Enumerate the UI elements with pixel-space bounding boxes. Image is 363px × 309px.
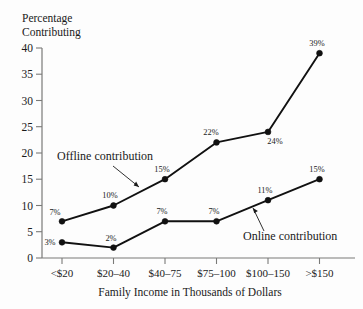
svg-text:0: 0 [27,252,33,264]
line-chart: Percentage Contributing 0 5 10 15 20 25 … [0,0,363,309]
svg-text:7%: 7% [208,207,219,216]
svg-text:24%: 24% [267,137,282,146]
svg-text:$20–40: $20–40 [97,267,131,279]
svg-text:15%: 15% [309,165,324,174]
svg-text:3%: 3% [44,238,55,247]
svg-text:7%: 7% [156,207,167,216]
svg-text:2%: 2% [105,234,116,243]
svg-text:$40–75: $40–75 [149,267,183,279]
annotation-online-arrowhead [253,208,258,213]
svg-text:40: 40 [22,42,34,54]
point-labels-offline: 7% 10% 15% 22% 24% 39% [49,39,324,217]
svg-text:>$150: >$150 [305,267,334,279]
annotation-offline-arrowhead [134,182,139,187]
y-axis-label-line2: Contributing [22,26,81,39]
svg-text:22%: 22% [203,128,218,137]
annotation-offline-contribution: Offline contribution [57,149,153,163]
svg-text:35: 35 [22,68,34,80]
x-axis-tick-labels: <$20 $20–40 $40–75 $75–100 $100–150 >$15… [51,267,334,279]
svg-text:15: 15 [22,173,34,185]
svg-text:$100–150: $100–150 [246,267,291,279]
x-axis-title: Family Income in Thousands of Dollars [98,286,282,299]
svg-text:25: 25 [22,121,34,133]
y-axis-tick-labels: 0 5 10 15 20 25 30 35 40 [22,42,34,264]
svg-text:11%: 11% [257,186,272,195]
svg-text:5: 5 [27,226,33,238]
annotation-online-contribution: Online contribution [243,229,337,243]
svg-text:<$20: <$20 [51,267,74,279]
y-axis-label-line1: Percentage [22,12,72,25]
series-markers-offline [59,50,322,224]
x-axis-ticks [62,258,320,264]
svg-text:15%: 15% [154,165,169,174]
svg-text:10: 10 [22,200,34,212]
chart-container: Percentage Contributing 0 5 10 15 20 25 … [0,0,363,309]
svg-text:7%: 7% [49,208,60,217]
y-axis-ticks [36,48,42,258]
svg-text:30: 30 [22,95,34,107]
svg-text:10%: 10% [102,191,117,200]
svg-text:39%: 39% [309,39,324,48]
svg-text:20: 20 [22,147,34,159]
svg-text:$75–100: $75–100 [197,267,236,279]
